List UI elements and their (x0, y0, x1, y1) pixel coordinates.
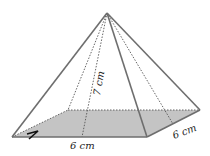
edge-apex-back-right (107, 13, 200, 110)
pyramid-diagram: 7 cm 6 cm 6 cm (0, 0, 210, 156)
base-front-label: 6 cm (70, 140, 95, 151)
height-label: 7 cm (91, 70, 106, 96)
base-side-label: 6 cm (171, 122, 198, 141)
slant-height-line (107, 13, 173, 124)
